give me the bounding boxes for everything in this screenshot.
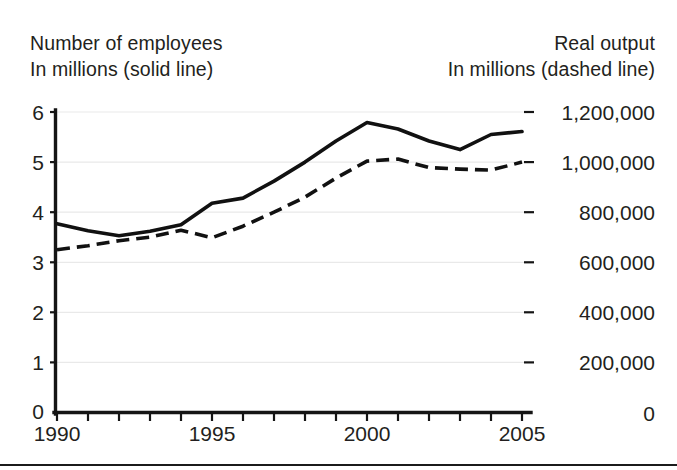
left-axis-caption: Number of employees In millions (solid l… bbox=[30, 30, 223, 82]
left-axis-tick-label: 6 bbox=[32, 101, 44, 124]
x-axis-tick-label: 2005 bbox=[499, 422, 546, 445]
right-axis-labels-group: 0200,000400,000600,000800,0001,000,0001,… bbox=[562, 101, 655, 425]
left-axis-labels-group: 0123456 bbox=[32, 101, 44, 423]
left-axis-tick-label: 0 bbox=[32, 400, 44, 423]
right-axis-tick-label: 200,000 bbox=[579, 351, 655, 374]
right-axis-tick-label: 1,200,000 bbox=[562, 101, 655, 124]
right-axis-tick-label: 600,000 bbox=[579, 251, 655, 274]
left-axis-tick-label: 2 bbox=[32, 301, 44, 324]
x-axis-tick-label: 2000 bbox=[344, 422, 391, 445]
right-axis-tick-label: 800,000 bbox=[579, 201, 655, 224]
right-axis-tick-label: 1,000,000 bbox=[562, 151, 655, 174]
series-line-employees bbox=[57, 123, 522, 236]
right-axis-caption-line2: In millions (dashed line) bbox=[448, 56, 655, 82]
right-axis-tick-label: 400,000 bbox=[579, 301, 655, 324]
left-axis-tick-label: 4 bbox=[32, 201, 44, 224]
right-axis-tick-label: 0 bbox=[643, 402, 655, 425]
bottom-divider-rule bbox=[0, 464, 677, 466]
x-axis-labels-group: 1990199520002005 bbox=[34, 422, 546, 445]
right-axis-ticks-group bbox=[524, 112, 534, 362]
left-axis-caption-line1: Number of employees bbox=[30, 30, 223, 56]
x-axis-tick-label: 1995 bbox=[189, 422, 236, 445]
left-axis-caption-line2: In millions (solid line) bbox=[30, 56, 223, 82]
x-axis-tick-label: 1990 bbox=[34, 422, 81, 445]
right-axis-caption-line1: Real output bbox=[448, 30, 655, 56]
left-axis-tick-label: 5 bbox=[32, 151, 44, 174]
left-axis-tick-label: 1 bbox=[32, 351, 44, 374]
chart-figure: Number of employees In millions (solid l… bbox=[0, 0, 677, 470]
left-axis-tick-label: 3 bbox=[32, 251, 44, 274]
right-axis-caption: Real output In millions (dashed line) bbox=[448, 30, 655, 82]
